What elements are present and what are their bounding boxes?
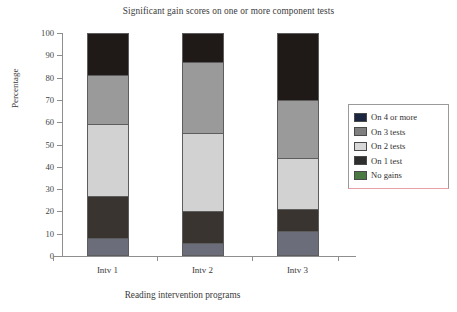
- stacked-bar[interactable]: [87, 33, 129, 256]
- legend-item[interactable]: On 4 or more: [354, 110, 444, 125]
- y-tick-label: 30: [45, 184, 54, 194]
- legend-item[interactable]: On 3 tests: [354, 125, 444, 140]
- legend-swatch-icon: [354, 113, 367, 122]
- legend-item[interactable]: On 2 tests: [354, 139, 444, 154]
- y-tick-label: 60: [45, 117, 54, 127]
- bar-segment[interactable]: [182, 133, 224, 211]
- bar-segment[interactable]: [87, 124, 129, 195]
- legend-swatch-icon: [354, 156, 367, 165]
- legend-item[interactable]: No gains: [354, 168, 444, 183]
- legend-label: On 3 tests: [371, 127, 405, 137]
- legend-label: On 1 test: [371, 156, 402, 166]
- stacked-bar[interactable]: [277, 33, 319, 256]
- legend-label: On 2 tests: [371, 141, 405, 151]
- y-tick-label: 20: [45, 206, 54, 216]
- bar-segment[interactable]: [277, 100, 319, 158]
- bar-segment[interactable]: [182, 243, 224, 256]
- legend-label: No gains: [371, 170, 402, 180]
- bar-segment[interactable]: [87, 238, 129, 256]
- y-tick: [57, 211, 62, 212]
- y-tick: [57, 122, 62, 123]
- x-tick: [252, 256, 253, 261]
- y-tick: [57, 145, 62, 146]
- y-axis-line: [62, 33, 63, 257]
- legend-swatch-icon: [354, 171, 367, 180]
- bar-segment[interactable]: [277, 209, 319, 231]
- legend-item[interactable]: On 1 test: [354, 154, 444, 169]
- bar-segment[interactable]: [277, 231, 319, 256]
- bar-segment[interactable]: [87, 75, 129, 124]
- y-tick: [57, 256, 62, 257]
- x-tick: [53, 256, 54, 261]
- plot-area: 0102030405060708090100 Intv 1Intv 2Intv …: [62, 33, 347, 256]
- x-category-label: Intv 3: [287, 265, 308, 275]
- y-tick-label: 100: [41, 28, 54, 38]
- chart-root: Significant gain scores on one or more c…: [0, 0, 457, 312]
- x-category-label: Intv 2: [192, 265, 213, 275]
- y-tick-label: 90: [45, 50, 54, 60]
- y-tick-label: 10: [45, 229, 54, 239]
- y-axis-title: Percentage: [10, 69, 20, 108]
- x-axis-title: Reading intervention programs: [0, 290, 365, 300]
- legend-label: On 4 or more: [371, 112, 417, 122]
- y-tick: [57, 78, 62, 79]
- stacked-bar[interactable]: [182, 33, 224, 256]
- bar-segment[interactable]: [182, 62, 224, 133]
- x-tick: [157, 256, 158, 261]
- y-tick: [57, 33, 62, 34]
- x-tick: [338, 256, 339, 261]
- y-tick-label: 80: [45, 73, 54, 83]
- bar-segment[interactable]: [277, 33, 319, 100]
- y-tick-label: 50: [45, 140, 54, 150]
- legend: On 4 or moreOn 3 testsOn 2 testsOn 1 tes…: [348, 104, 449, 189]
- bar-segment[interactable]: [182, 211, 224, 242]
- legend-swatch-icon: [354, 142, 367, 151]
- chart-title: Significant gain scores on one or more c…: [0, 6, 457, 16]
- y-tick: [57, 100, 62, 101]
- y-tick-label: 40: [45, 162, 54, 172]
- bar-segment[interactable]: [87, 33, 129, 75]
- legend-swatch-icon: [354, 127, 367, 136]
- y-tick: [57, 55, 62, 56]
- bar-segment[interactable]: [182, 33, 224, 62]
- y-tick-label: 70: [45, 95, 54, 105]
- x-axis-line: [53, 256, 356, 257]
- x-category-label: Intv 1: [97, 265, 118, 275]
- y-tick: [57, 167, 62, 168]
- y-tick: [57, 234, 62, 235]
- bar-segment[interactable]: [87, 196, 129, 238]
- bar-segment[interactable]: [277, 158, 319, 209]
- y-tick: [57, 189, 62, 190]
